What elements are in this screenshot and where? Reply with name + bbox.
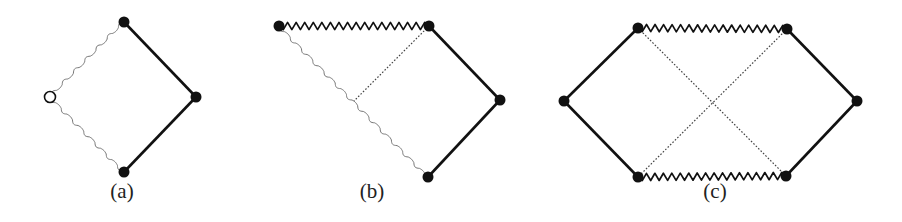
wavy-edge xyxy=(279,26,428,178)
filled-node-bottom-left xyxy=(633,172,644,183)
zigzag-edge xyxy=(638,24,787,32)
filled-node-right xyxy=(191,92,202,103)
filled-node-top-right xyxy=(782,24,793,35)
filled-node-bottom xyxy=(119,167,130,178)
filled-node-bottom xyxy=(423,172,434,183)
filled-node-right xyxy=(495,95,506,106)
dotted-edge xyxy=(354,26,429,101)
solid-edge xyxy=(124,97,196,172)
filled-node-top-left xyxy=(274,21,285,32)
penrose-diagrams-figure: (a) (b) (c) xyxy=(0,0,902,222)
solid-edge xyxy=(564,101,638,177)
panel-b-label: (b) xyxy=(360,179,385,203)
filled-node-right xyxy=(852,96,863,107)
panel-c-label: (c) xyxy=(703,179,726,203)
filled-node-bottom-right xyxy=(781,171,792,182)
filled-node-top xyxy=(119,17,130,28)
wavy-edge xyxy=(50,22,124,97)
solid-edge xyxy=(429,26,500,100)
panel-c-diagram xyxy=(559,23,863,183)
panel-a-label: (a) xyxy=(110,179,133,203)
solid-edge xyxy=(786,101,857,176)
wavy-edge xyxy=(50,97,124,172)
filled-node-top-right xyxy=(424,21,435,32)
solid-edge xyxy=(787,29,857,101)
solid-edge xyxy=(124,22,196,97)
filled-node-left xyxy=(559,96,570,107)
filled-node-top-left xyxy=(633,23,644,34)
panel-a-diagram xyxy=(45,17,202,178)
solid-edge xyxy=(564,28,638,101)
panel-b-diagram xyxy=(274,21,506,183)
open-node-left xyxy=(45,92,56,103)
solid-edge xyxy=(428,100,500,177)
zigzag-edge xyxy=(279,22,429,29)
dotted-edge xyxy=(638,28,786,176)
